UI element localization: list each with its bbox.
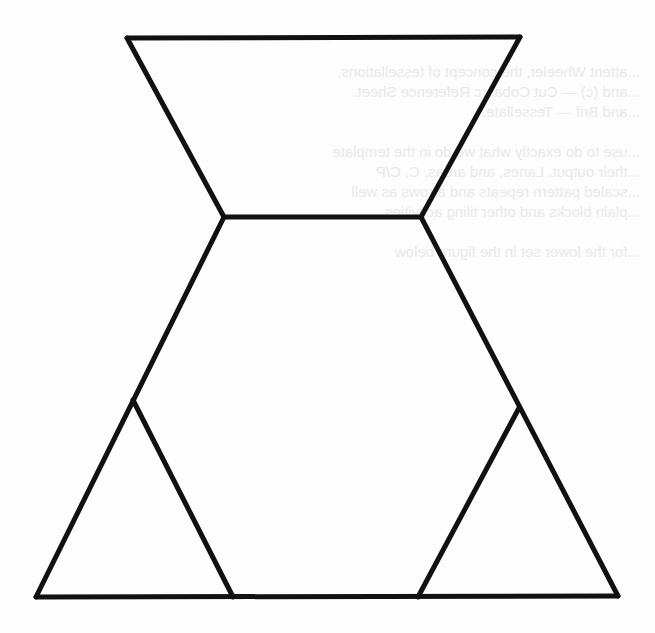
- upper-right-edge: [421, 37, 520, 217]
- bottom-edge: [36, 596, 618, 597]
- right-inner-edge: [418, 408, 519, 597]
- hourglass-figure: [0, 0, 655, 633]
- left-inner-edge: [133, 400, 233, 597]
- diagram-canvas: ...attent Wheeler, the concept of tessel…: [0, 0, 655, 633]
- upper-left-edge: [127, 38, 224, 217]
- top-edge: [127, 37, 520, 38]
- lower-left-edge: [36, 217, 224, 597]
